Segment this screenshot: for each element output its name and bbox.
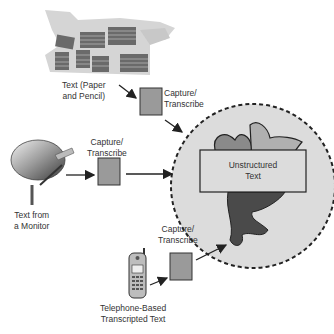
paper-pile-icon <box>45 10 175 75</box>
target-line1: Unstructured <box>200 160 306 171</box>
monitor-source-label: Text from a Monitor <box>14 210 49 231</box>
monitor-label-line2: a Monitor <box>14 221 49 232</box>
paper-source-label: Text (Paper and Pencil) <box>62 80 105 101</box>
capture-box-top <box>140 88 162 115</box>
capture-middle-line2: Transcribe <box>87 148 127 159</box>
capture-box-middle <box>98 158 120 185</box>
capture-label-top: Capture/ Transcribe <box>164 88 204 109</box>
capture-top-line1: Capture/ <box>164 88 204 99</box>
unstructured-text-label: Unstructured Text <box>200 160 306 181</box>
paper-label-line1: Text (Paper <box>62 80 105 91</box>
telephone-source-label: Telephone-Based Transcripted Text <box>100 303 166 324</box>
telephone-label-line2: Transcripted Text <box>100 314 166 325</box>
paper-label-line2: and Pencil) <box>62 91 105 102</box>
telephone-icon <box>129 248 146 298</box>
capture-bottom-line1: Capture/ <box>158 224 198 235</box>
capture-bottom-line2: Transcribe <box>158 235 198 246</box>
monitor-label-line1: Text from <box>14 210 49 221</box>
capture-middle-line1: Capture/ <box>87 137 127 148</box>
capture-box-bottom <box>170 253 192 280</box>
target-line2: Text <box>200 171 306 182</box>
capture-label-bottom: Capture/ Transcribe <box>158 224 198 245</box>
monitor-dish-icon <box>11 140 74 205</box>
capture-top-line2: Transcribe <box>164 99 204 110</box>
diagram-canvas: Text (Paper and Pencil) Capture/ Transcr… <box>0 0 334 334</box>
capture-label-middle: Capture/ Transcribe <box>87 137 127 158</box>
telephone-label-line1: Telephone-Based <box>100 303 166 314</box>
